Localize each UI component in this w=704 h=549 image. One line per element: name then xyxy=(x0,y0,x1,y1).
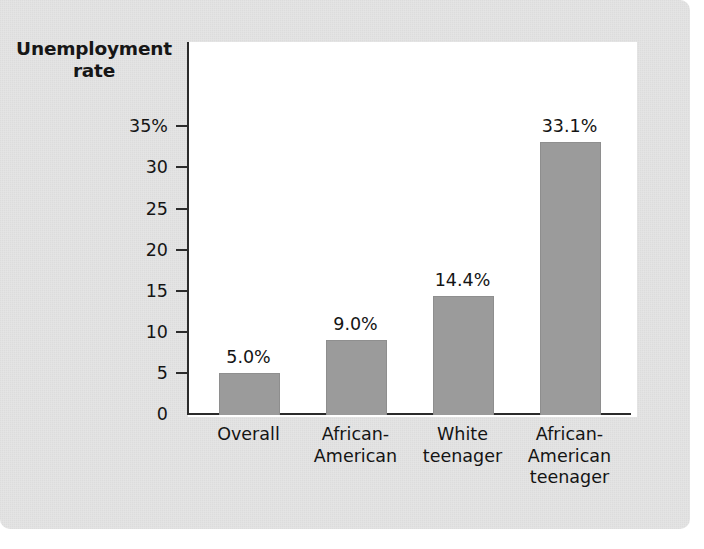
category-label-line: African- xyxy=(511,424,628,446)
category-label-line: American xyxy=(511,446,628,468)
category-label: Whiteteenager xyxy=(404,424,521,467)
bar-value-label: 33.1% xyxy=(518,116,621,136)
category-label: Overall xyxy=(190,424,307,446)
y-tick-label: 20 xyxy=(102,240,168,260)
chart-page: Unemployment rate 05101520253035% 5.0%9.… xyxy=(0,0,704,549)
y-tick-mark xyxy=(176,125,187,127)
category-label: African-Americanteenager xyxy=(511,424,628,489)
y-tick-label: 25 xyxy=(102,199,168,219)
y-tick-label: 30 xyxy=(102,157,168,177)
category-label-line: teenager xyxy=(511,467,628,489)
y-tick-label: 0 xyxy=(102,404,168,424)
y-tick-mark xyxy=(176,249,187,251)
category-label-line: American xyxy=(297,446,414,468)
y-tick-mark xyxy=(176,208,187,210)
bar[interactable] xyxy=(433,296,494,415)
y-tick-mark xyxy=(176,372,187,374)
category-label-line: White xyxy=(404,424,521,446)
bar-value-label: 5.0% xyxy=(197,347,300,367)
y-tick-mark xyxy=(176,166,187,168)
category-label: African-American xyxy=(297,424,414,467)
y-tick-label: 10 xyxy=(102,322,168,342)
bar-value-label: 9.0% xyxy=(304,314,407,334)
bar[interactable] xyxy=(219,373,280,415)
bar[interactable] xyxy=(326,340,387,415)
category-label-line: teenager xyxy=(404,446,521,468)
y-tick-mark xyxy=(176,290,187,292)
y-axis-line xyxy=(187,42,189,415)
y-tick-mark xyxy=(176,331,187,333)
y-tick-label: 15 xyxy=(102,281,168,301)
y-axis-ticks: 05101520253035% xyxy=(100,0,168,549)
category-label-line: African- xyxy=(297,424,414,446)
y-tick-label: 35% xyxy=(102,116,168,136)
category-label-line: Overall xyxy=(190,424,307,446)
bar[interactable] xyxy=(540,142,601,415)
y-tick-label: 5 xyxy=(102,363,168,383)
bar-value-label: 14.4% xyxy=(411,270,514,290)
